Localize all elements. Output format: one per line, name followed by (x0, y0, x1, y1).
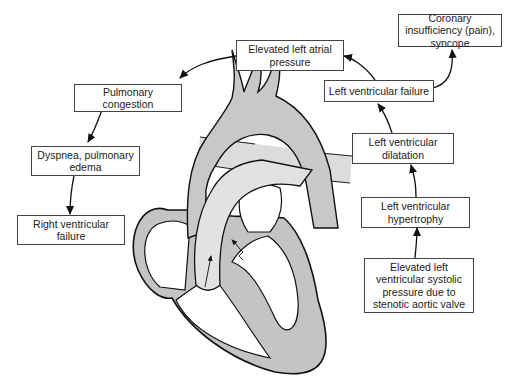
box-left-ventricular-failure: Left ventricular failure (324, 80, 434, 102)
box-dyspnea-pulmonary-edema: Dyspnea, pulmonary edema (31, 146, 140, 176)
box-elevated-lv-systolic-pressure: Elevated left ventricular systolic press… (364, 258, 474, 313)
box-left-ventricular-hypertrophy: Left ventricular hypertrophy (361, 197, 470, 228)
box-pulmonary-congestion: Pulmonary congestion (74, 84, 182, 112)
box-right-ventricular-failure: Right ventricular failure (17, 215, 125, 245)
box-left-ventricular-dilatation: Left ventricular dilatation (352, 133, 454, 164)
box-coronary-insufficiency: Coronary insufficiency (pain), syncope (398, 14, 502, 47)
box-elevated-left-atrial-pressure: Elevated left atrial pressure (236, 40, 344, 71)
